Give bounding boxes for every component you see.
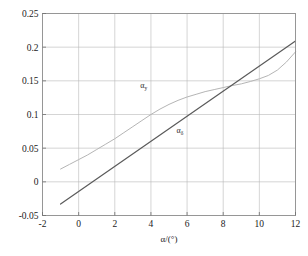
x-tick-label: 8 (221, 219, 226, 229)
curve-label-1: αy (140, 81, 147, 91)
x-tick-label: 12 (291, 219, 301, 229)
x-tick-label: 6 (185, 219, 190, 229)
y-tick-label: 0 (34, 177, 39, 187)
curve-label-2: αδ (176, 126, 183, 136)
line-chart: -2024681012-0.0500.050.10.150.20.25α/(°)… (0, 0, 308, 256)
x-axis-title: α/(°) (161, 234, 178, 244)
y-tick-label: 0.05 (22, 144, 39, 154)
y-tick-label: 0.1 (27, 110, 39, 120)
x-tick-label: 0 (76, 219, 81, 229)
curve-label-subscript: δ (181, 130, 184, 136)
chart-figure: -2024681012-0.0500.050.10.150.20.25α/(°)… (0, 0, 308, 256)
series-line-2 (61, 41, 296, 204)
x-tick-label: 2 (112, 219, 117, 229)
series-line-1 (61, 52, 296, 169)
y-tick-label: -0.05 (19, 211, 39, 221)
x-tick-label: 10 (255, 219, 265, 229)
y-tick-label: 0.25 (22, 9, 39, 19)
y-tick-label: 0.15 (22, 76, 39, 86)
x-tick-label: 4 (149, 219, 154, 229)
x-tick-label: -2 (39, 219, 47, 229)
y-tick-label: 0.2 (27, 43, 39, 53)
curve-label-subscript: y (144, 85, 147, 91)
